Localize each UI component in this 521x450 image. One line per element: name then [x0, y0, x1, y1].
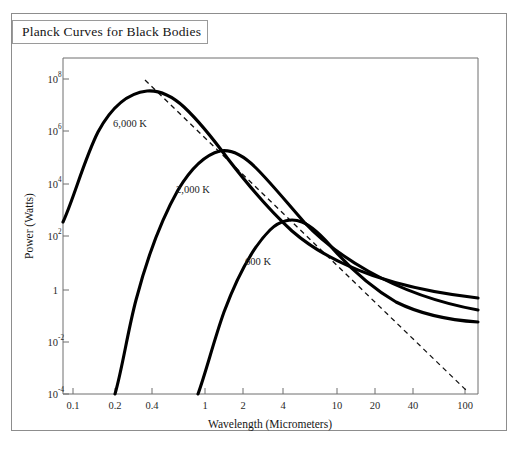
chart-title-box: Planck Curves for Black Bodies [12, 20, 208, 44]
page-title: Planck Curves for Black Bodies [22, 24, 201, 40]
figure-outer-frame [11, 13, 507, 431]
figure-root: Planck Curves for Black Bodies [0, 0, 521, 450]
